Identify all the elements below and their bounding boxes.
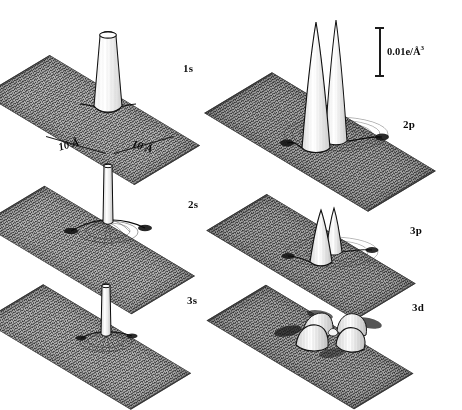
panel-1s: 1s: [10, 2, 225, 152]
surface-peaks-2s: [8, 158, 223, 283]
panel-3p: 3p: [238, 182, 460, 292]
panel-label-1s: 1s: [183, 62, 193, 74]
density-scale-label: 0.01e/Å3: [387, 44, 424, 57]
panel-2s: 2s: [8, 158, 223, 283]
density-scale-exponent: 3: [421, 44, 425, 52]
density-scalebar: [375, 27, 384, 77]
panel-2p: 2p: [232, 0, 460, 178]
panel-label-3s: 3s: [187, 294, 197, 306]
panel-label-2p: 2p: [403, 118, 415, 130]
surface-peaks-1s: [10, 2, 225, 152]
density-scale-value: 0.01e/Å: [387, 46, 421, 57]
surface-peaks-2p: [232, 0, 460, 178]
surface-peaks-3d: [240, 283, 462, 383]
surface-peaks-3p: [238, 182, 460, 292]
panel-label-2s: 2s: [188, 198, 198, 210]
surface-peaks-3s: [6, 272, 221, 384]
panel-3d: 3d: [240, 283, 462, 383]
panel-label-3p: 3p: [410, 224, 422, 236]
panel-3s: 3s: [6, 272, 221, 384]
panel-label-3d: 3d: [412, 301, 424, 313]
